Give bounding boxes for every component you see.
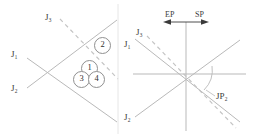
- right-label-j3: J₃: [136, 28, 143, 37]
- figure-container: J₃ J₁ J₂ 2 1 3 4 EP SP J₃ J₁ J₂ JP₂: [0, 0, 253, 138]
- right-label-jp2: JP₂: [216, 92, 228, 101]
- right-panel-group: [133, 19, 246, 131]
- angle-arc: [204, 66, 212, 90]
- left-line-j1: [27, 58, 117, 122]
- left-panel-group: [27, 4, 118, 134]
- right-label-j2: J₂: [124, 113, 131, 122]
- left-label-j2: J₂: [11, 84, 18, 93]
- right-line-j3-dashed: [147, 36, 236, 128]
- ep-arrow: [163, 19, 186, 25]
- right-label-j1: J₁: [124, 40, 131, 49]
- right-label-sp: SP: [195, 11, 204, 19]
- sp-arrow: [186, 19, 209, 25]
- region-marker-2: 2: [94, 37, 111, 54]
- right-label-ep: EP: [165, 11, 174, 19]
- region-marker-4: 4: [88, 71, 105, 88]
- jp2-leader: [206, 90, 215, 96]
- left-label-j1: J₁: [11, 50, 18, 59]
- left-label-j3: J₃: [45, 13, 52, 22]
